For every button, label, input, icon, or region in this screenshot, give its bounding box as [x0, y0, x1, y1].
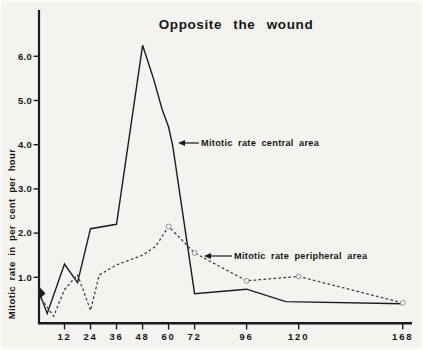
x-tick-label: 48 — [135, 331, 149, 342]
y-tick-label: 5.0 — [18, 95, 32, 106]
y-tick-label: 2.0 — [18, 227, 32, 238]
series-start-arrowhead — [39, 287, 46, 300]
x-tick-label: 96 — [240, 331, 254, 342]
chart-title: Opposite the wound — [159, 17, 314, 32]
x-tick-label: 36 — [109, 331, 123, 342]
annotation-label-central: Mitotic rate central area — [201, 138, 320, 148]
x-tick-label: 60 — [161, 331, 175, 342]
line-chart: Opposite the wound Mitotic rate in per c… — [0, 0, 423, 350]
x-tick-label: 72 — [188, 331, 202, 342]
data-point-marker — [244, 278, 249, 283]
annotation-arrowhead — [178, 140, 185, 146]
x-tick-label: 24 — [83, 331, 97, 342]
chart-plot-area: 1.02.03.04.05.06.012243648607296120168Mi… — [18, 10, 413, 342]
data-point-marker — [192, 251, 197, 256]
figure-opposite-the-wound: Opposite the wound Mitotic rate in per c… — [0, 0, 423, 350]
data-point-marker — [166, 224, 171, 229]
data-point-marker — [296, 274, 301, 279]
series-central-line — [39, 45, 403, 313]
x-tick-label: 168 — [392, 331, 413, 342]
annotation-label-peripheral: Mitotic rate peripheral area — [234, 251, 368, 261]
x-tick-label: 12 — [57, 331, 71, 342]
y-axis-title: Mitotic rate in per cent per hour — [6, 149, 17, 320]
y-tick-label: 1.0 — [18, 272, 32, 283]
x-tick-label: 120 — [288, 331, 309, 342]
data-point-marker — [400, 301, 405, 306]
y-tick-label: 6.0 — [18, 51, 32, 62]
y-tick-label: 4.0 — [18, 139, 32, 150]
y-tick-label: 3.0 — [18, 183, 32, 194]
